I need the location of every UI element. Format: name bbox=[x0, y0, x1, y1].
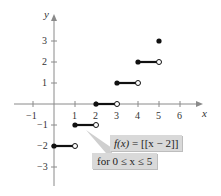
y-tick-label: 2 bbox=[42, 57, 47, 67]
closed-points bbox=[51, 38, 161, 148]
x-tick-label: 6 bbox=[177, 111, 182, 121]
y-axis-arrow-icon bbox=[51, 14, 57, 21]
function-equals: = bbox=[129, 137, 141, 149]
x-tick-label: 3 bbox=[114, 111, 119, 121]
x-tick-label: −1 bbox=[26, 111, 37, 121]
y-axis-label: y bbox=[44, 9, 49, 19]
y-tick-label: −2 bbox=[37, 141, 48, 151]
x-tick-label: 4 bbox=[135, 111, 140, 121]
x-tick-label: 1 bbox=[72, 111, 77, 121]
function-name: f(x) bbox=[114, 137, 129, 149]
domain-text: for 0 ≤ x ≤ 5 bbox=[97, 155, 152, 167]
function-callout: f(x) = [[x − 2]] bbox=[110, 135, 182, 151]
x-axis-label: x bbox=[202, 108, 207, 118]
y-tick-label: −1 bbox=[37, 120, 48, 130]
x-tick-label: 2 bbox=[93, 111, 98, 121]
x-tick-label: 5 bbox=[156, 111, 161, 121]
function-rhs: [[x − 2]] bbox=[141, 137, 178, 149]
y-tick-label: 3 bbox=[42, 36, 47, 46]
domain-callout: for 0 ≤ x ≤ 5 bbox=[92, 153, 157, 169]
y-tick-label: −3 bbox=[37, 162, 48, 172]
y-tick-label: 1 bbox=[42, 78, 47, 88]
